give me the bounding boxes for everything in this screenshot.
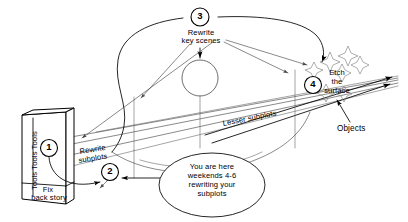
label-fix-back-story-line2: back story (20, 194, 78, 202)
center-node (182, 60, 218, 148)
step-number-3: 3 (190, 11, 210, 21)
step-number-1: 1 (39, 142, 59, 152)
label-etch-line1: Etch (322, 69, 352, 77)
label-etch-line3: surface (317, 87, 357, 95)
label-tools-box-side: Tools Tools Tools (31, 131, 39, 190)
label-etch-line2: the (322, 78, 352, 86)
callout-line-2: weekends 4-6 (160, 172, 264, 180)
callout-line-4: subplots (160, 190, 264, 198)
step-number-2: 2 (100, 166, 120, 176)
label-rewrite-key-scenes-line2: key scenes (172, 37, 230, 45)
diagram-canvas: 3 1 2 4 Rewrite key scenes Tools Tools T… (0, 0, 408, 222)
callout-line-1: You are here (160, 163, 264, 171)
label-objects: Objects (337, 125, 365, 134)
callout-line-3: rewriting your (160, 181, 264, 189)
